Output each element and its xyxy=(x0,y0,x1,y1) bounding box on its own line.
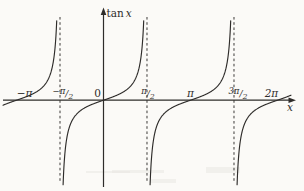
x-tick-label: π/2 xyxy=(140,86,155,101)
x-tick-label: −π/2 xyxy=(53,86,74,101)
scan-smudge xyxy=(150,179,176,183)
tan-curve-branch xyxy=(150,21,231,185)
x-tick-label: 2π xyxy=(264,87,280,99)
tan-function-figure: −π−π/20π/2π3π/22πtan xx xyxy=(0,0,304,191)
x-tick-label: π xyxy=(186,87,195,99)
tan-curve-branch xyxy=(237,95,291,185)
scan-smudge xyxy=(206,167,240,173)
x-tick-label: −π xyxy=(17,87,34,99)
tan-plot-canvas: −π−π/20π/2π3π/22πtan xx xyxy=(0,0,304,191)
scan-smudge xyxy=(86,171,130,173)
y-axis-arrowhead xyxy=(101,8,107,16)
y-axis-label: tan x xyxy=(107,7,132,19)
x-axis-label: x xyxy=(287,101,293,113)
x-tick-label: 0 xyxy=(94,87,101,99)
x-tick-label: 3π/2 xyxy=(228,86,247,101)
